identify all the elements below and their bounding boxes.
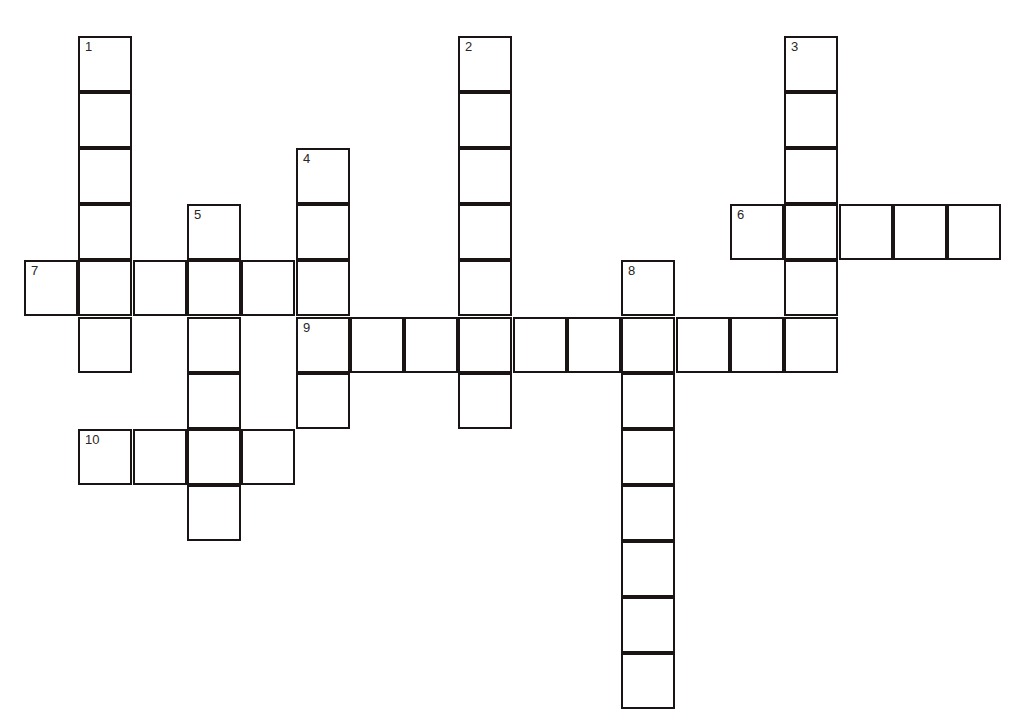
crossword-cell[interactable]: 7 bbox=[24, 260, 78, 316]
clue-number: 10 bbox=[85, 433, 99, 446]
crossword-cell[interactable] bbox=[78, 92, 132, 148]
crossword-cell[interactable] bbox=[458, 260, 512, 316]
crossword-cell[interactable] bbox=[567, 317, 621, 373]
crossword-cell[interactable] bbox=[947, 204, 1001, 260]
crossword-cell[interactable] bbox=[458, 317, 512, 373]
crossword-cell[interactable] bbox=[187, 485, 241, 541]
crossword-cell[interactable] bbox=[458, 148, 512, 204]
crossword-cell[interactable]: 8 bbox=[621, 260, 675, 316]
crossword-cell[interactable]: 5 bbox=[187, 204, 241, 260]
crossword-cell[interactable] bbox=[458, 204, 512, 260]
crossword-cell[interactable] bbox=[784, 92, 838, 148]
crossword-cell[interactable] bbox=[350, 317, 404, 373]
crossword-cell[interactable]: 2 bbox=[458, 36, 512, 92]
crossword-cell[interactable] bbox=[133, 260, 187, 316]
crossword-cell[interactable] bbox=[621, 317, 675, 373]
crossword-cell[interactable] bbox=[784, 148, 838, 204]
crossword-cell[interactable] bbox=[78, 260, 132, 316]
crossword-cell[interactable] bbox=[78, 148, 132, 204]
clue-number: 2 bbox=[465, 40, 472, 53]
crossword-cell[interactable] bbox=[621, 541, 675, 597]
crossword-cell[interactable] bbox=[730, 317, 784, 373]
clue-number: 5 bbox=[194, 208, 201, 221]
crossword-cell[interactable] bbox=[839, 204, 893, 260]
crossword-cell[interactable] bbox=[187, 260, 241, 316]
crossword-cell[interactable] bbox=[458, 92, 512, 148]
crossword-cell[interactable] bbox=[133, 429, 187, 485]
crossword-cell[interactable] bbox=[241, 260, 295, 316]
crossword-cell[interactable]: 10 bbox=[78, 429, 132, 485]
crossword-grid: 12349567810 bbox=[0, 0, 1025, 728]
clue-number: 4 bbox=[303, 152, 310, 165]
crossword-cell[interactable] bbox=[78, 317, 132, 373]
clue-number: 7 bbox=[31, 264, 38, 277]
clue-number: 8 bbox=[628, 264, 635, 277]
crossword-cell[interactable] bbox=[187, 373, 241, 429]
clue-number: 6 bbox=[737, 208, 744, 221]
crossword-cell[interactable] bbox=[458, 373, 512, 429]
crossword-cell[interactable]: 9 bbox=[296, 317, 350, 373]
crossword-cell[interactable]: 3 bbox=[784, 36, 838, 92]
crossword-cell[interactable]: 1 bbox=[78, 36, 132, 92]
crossword-cell[interactable] bbox=[676, 317, 730, 373]
crossword-cell[interactable] bbox=[621, 653, 675, 709]
crossword-cell[interactable] bbox=[187, 429, 241, 485]
crossword-cell[interactable]: 4 bbox=[296, 148, 350, 204]
crossword-cell[interactable] bbox=[241, 429, 295, 485]
crossword-cell[interactable] bbox=[296, 373, 350, 429]
crossword-cell[interactable] bbox=[404, 317, 458, 373]
crossword-cell[interactable] bbox=[621, 485, 675, 541]
crossword-cell[interactable] bbox=[296, 260, 350, 316]
crossword-cell[interactable] bbox=[621, 597, 675, 653]
crossword-cell[interactable] bbox=[784, 204, 838, 260]
crossword-cell[interactable] bbox=[893, 204, 947, 260]
crossword-cell[interactable]: 6 bbox=[730, 204, 784, 260]
clue-number: 9 bbox=[303, 321, 310, 334]
crossword-cell[interactable] bbox=[296, 204, 350, 260]
crossword-cell[interactable] bbox=[187, 317, 241, 373]
crossword-cell[interactable] bbox=[784, 317, 838, 373]
clue-number: 3 bbox=[791, 40, 798, 53]
crossword-cell[interactable] bbox=[513, 317, 567, 373]
crossword-cell[interactable] bbox=[78, 204, 132, 260]
clue-number: 1 bbox=[85, 40, 92, 53]
crossword-cell[interactable] bbox=[621, 429, 675, 485]
crossword-cell[interactable] bbox=[621, 373, 675, 429]
crossword-cell[interactable] bbox=[784, 260, 838, 316]
